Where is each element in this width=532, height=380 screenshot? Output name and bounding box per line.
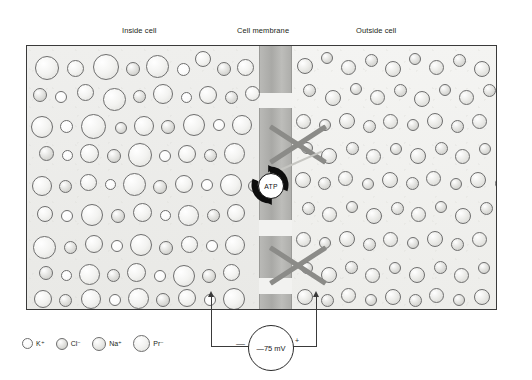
ion-particle-inside: [175, 175, 193, 193]
ion-particle-outside: [370, 90, 385, 105]
ion-particle-inside: [55, 91, 67, 103]
legend-sodium-label: Na⁺: [109, 340, 122, 348]
membrane-segment-4: [259, 294, 292, 310]
circuit-wire-left: [211, 346, 253, 347]
ion-particle-inside: [133, 90, 146, 103]
ion-particle-inside: [59, 180, 72, 193]
ion-particle-inside: [37, 206, 53, 222]
ion-particle-inside: [201, 179, 213, 191]
ion-particle-inside: [245, 86, 260, 101]
ion-particle-outside: [472, 232, 487, 247]
ion-particle-inside: [33, 236, 56, 259]
ion-particle-inside: [39, 266, 53, 280]
ion-particle-inside: [61, 270, 72, 281]
ion-particle-inside: [105, 179, 116, 190]
ion-particle-outside: [322, 207, 337, 222]
ion-particle-outside: [302, 202, 315, 215]
ion-particle-outside: [383, 114, 398, 129]
label-cell-membrane: Cell membrane: [237, 26, 289, 35]
voltmeter: —75 mV: [248, 325, 294, 371]
ion-particle-inside: [64, 241, 77, 254]
ion-particle-outside: [474, 289, 490, 305]
electrode-wire-outside-vertical: [316, 297, 317, 347]
membrane-segment-1: [259, 46, 292, 93]
ion-particle-inside: [133, 203, 152, 222]
polarity-positive: +: [295, 337, 299, 344]
ion-particle-inside: [34, 290, 52, 308]
ion-particle-inside: [217, 62, 231, 76]
ion-particle-inside: [61, 210, 73, 222]
ion-particle-inside: [80, 144, 99, 163]
ion-particle-inside: [126, 62, 140, 76]
ion-particle-inside: [153, 180, 167, 194]
ion-particle-outside: [409, 294, 422, 307]
ion-particle-inside: [204, 149, 217, 162]
ion-particle-outside: [385, 289, 401, 305]
ion-particle-outside: [382, 172, 398, 188]
ion-particle-inside: [206, 240, 218, 252]
ion-particle-inside: [81, 289, 101, 309]
legend-chloride: Cl⁻: [56, 338, 82, 350]
ion-particle-inside: [181, 236, 198, 253]
atp-core: ATP: [258, 173, 284, 199]
ion-particle-outside: [346, 201, 358, 213]
ion-particle-inside: [223, 288, 245, 310]
ion-particle-outside: [435, 142, 448, 155]
blocked-channel-upper-icon: [265, 128, 331, 160]
ion-particle-outside: [394, 84, 407, 97]
ion-particle-inside: [213, 119, 225, 131]
ion-particle-inside: [123, 173, 146, 196]
ion-particle-outside: [410, 148, 426, 164]
ion-particle-outside: [296, 114, 311, 129]
legend-protein-label: Pr⁻: [153, 340, 164, 348]
ion-particle-inside: [79, 264, 100, 285]
ion-particle-inside: [109, 294, 121, 306]
atp-label: ATP: [264, 183, 277, 190]
ion-particle-outside: [339, 113, 355, 129]
ion-particle-outside: [454, 268, 469, 283]
ion-particle-outside: [296, 232, 311, 247]
ion-particle-outside: [321, 52, 333, 64]
legend-potassium-label: K⁺: [36, 340, 45, 348]
ion-particle-outside: [427, 231, 443, 247]
ion-particle-inside: [62, 150, 73, 161]
ion-particle-inside: [81, 204, 103, 226]
ion-particle-outside: [496, 119, 497, 131]
ion-particle-outside: [365, 54, 378, 67]
ion-particle-inside: [183, 114, 205, 136]
ion-particle-outside: [363, 238, 376, 251]
legend-sodium-swatch: [92, 337, 106, 351]
ion-particle-inside: [93, 54, 119, 80]
ion-particle-outside: [297, 289, 313, 305]
ion-particle-outside: [453, 54, 466, 67]
ion-particle-outside: [366, 149, 381, 164]
ion-particle-outside: [365, 294, 377, 306]
ion-particle-outside: [427, 113, 443, 129]
ion-particle-inside: [33, 88, 47, 102]
ion-particle-inside: [177, 63, 190, 76]
ion-particle-inside: [202, 269, 216, 283]
ion-particle-inside: [32, 176, 52, 196]
ion-particle-inside: [128, 143, 152, 167]
legend-sodium: Na⁺: [92, 337, 122, 351]
ion-particle-inside: [146, 55, 169, 78]
ion-particle-inside: [225, 91, 238, 104]
ion-particle-inside: [134, 116, 154, 136]
ion-particle-outside: [480, 202, 493, 215]
legend-protein: Pr⁻: [133, 335, 164, 352]
ion-particle-inside: [81, 114, 106, 139]
ion-particle-inside: [103, 88, 126, 111]
ion-particle-outside: [406, 177, 419, 190]
ion-particle-inside: [225, 235, 245, 255]
ion-particle-outside: [341, 288, 356, 303]
electrode-arrow-outside: [313, 291, 319, 297]
ion-particle-outside: [341, 60, 356, 75]
electrode-wire-inside-vertical: [211, 297, 212, 347]
ion-particle-inside: [80, 174, 97, 191]
ion-particle-inside: [60, 120, 73, 133]
ion-particle-inside: [67, 60, 84, 77]
ion-particle-outside: [455, 149, 470, 164]
polarity-negative: —: [236, 340, 245, 349]
ion-particle-outside: [407, 237, 419, 249]
legend-protein-swatch: [133, 335, 150, 352]
